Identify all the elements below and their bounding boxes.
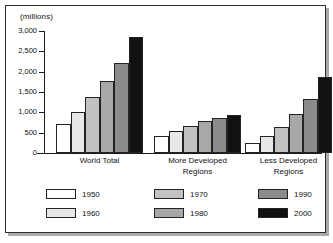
bar — [71, 112, 86, 153]
legend-label: 2000 — [294, 209, 312, 218]
bar — [56, 124, 71, 153]
legend-item: 1980 — [154, 208, 208, 218]
bar — [129, 37, 144, 153]
bar — [227, 115, 242, 153]
legend-label: 1970 — [190, 190, 208, 199]
bar — [198, 121, 213, 153]
bar — [85, 97, 100, 153]
bar — [289, 114, 304, 153]
chart-frame: (millions) 05001,0001,5002,0002,5003,000… — [5, 5, 326, 233]
bar — [303, 99, 318, 153]
legend-label: 1980 — [190, 209, 208, 218]
bar — [318, 77, 333, 153]
legend-swatch — [154, 189, 184, 199]
legend-item: 1950 — [46, 189, 100, 199]
legend-item: 1970 — [154, 189, 208, 199]
legend-swatch — [258, 189, 288, 199]
legend-item: 1990 — [258, 189, 312, 199]
bar — [114, 63, 129, 153]
plot-area: (millions) 05001,0001,5002,0002,5003,000… — [6, 6, 327, 234]
legend-label: 1990 — [294, 190, 312, 199]
bar — [169, 131, 184, 153]
legend-item: 1960 — [46, 208, 100, 218]
legend-swatch — [46, 208, 76, 218]
x-axis-category-label: World Total — [45, 156, 155, 167]
bar — [274, 127, 289, 153]
legend-swatch — [258, 208, 288, 218]
bar — [212, 118, 227, 153]
bar — [100, 81, 115, 153]
bar — [154, 136, 169, 153]
legend-swatch — [46, 189, 76, 199]
figure-container: (millions) 05001,0001,5002,0002,5003,000… — [0, 0, 333, 243]
legend-label: 1960 — [82, 209, 100, 218]
chart-legend: 195019601970198019902000 — [6, 186, 327, 232]
legend-swatch — [154, 208, 184, 218]
legend-item: 2000 — [258, 208, 312, 218]
bar — [260, 136, 275, 153]
x-axis-category-label: Less Developed Regions — [234, 156, 333, 177]
bar — [183, 126, 198, 153]
legend-label: 1950 — [82, 190, 100, 199]
bar — [245, 143, 260, 153]
